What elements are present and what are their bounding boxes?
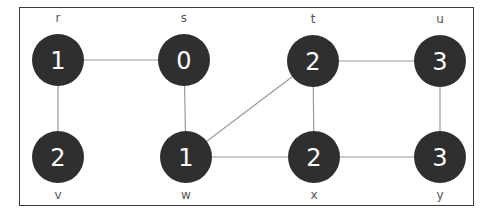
graph-canvas: 1r0s2t3u2v1w2x3y xyxy=(0,0,497,217)
node-distance: 1 xyxy=(178,144,193,172)
node-distance: 2 xyxy=(50,144,65,172)
node-t: 2t xyxy=(287,12,339,87)
node-w: 1w xyxy=(160,131,212,202)
node-distance: 0 xyxy=(176,47,191,75)
node-label: s xyxy=(181,11,187,25)
node-label: x xyxy=(310,188,317,202)
node-r: 1r xyxy=(32,11,84,86)
node-label: r xyxy=(56,11,61,25)
node-distance: 3 xyxy=(432,48,447,76)
node-x: 2x xyxy=(288,131,340,202)
node-label: v xyxy=(54,188,61,202)
node-label: t xyxy=(311,12,316,26)
node-label: w xyxy=(181,188,191,202)
node-distance: 2 xyxy=(305,48,320,76)
node-label: y xyxy=(436,188,443,202)
node-s: 0s xyxy=(158,11,210,86)
node-distance: 2 xyxy=(306,144,321,172)
nodes: 1r0s2t3u2v1w2x3y xyxy=(32,11,466,202)
node-v: 2v xyxy=(32,131,84,202)
node-distance: 3 xyxy=(432,144,447,172)
node-y: 3y xyxy=(414,131,466,202)
node-label: u xyxy=(436,12,444,26)
node-distance: 1 xyxy=(50,47,65,75)
node-u: 3u xyxy=(414,12,466,87)
edges xyxy=(58,60,440,157)
